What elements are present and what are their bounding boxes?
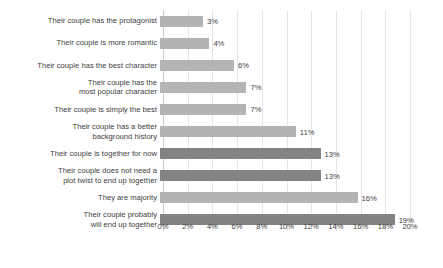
- bar-track: 13%: [160, 143, 443, 165]
- bar-value-label: 3%: [207, 17, 218, 26]
- x-tick-label: 14%: [328, 222, 343, 231]
- category-label: Their couple has the best character: [0, 61, 160, 70]
- x-tick-label: 12%: [304, 222, 319, 231]
- bar-track: 7%: [160, 98, 443, 120]
- bar-row: Their couple has the protagonist3%: [0, 10, 443, 32]
- bar-value-label: 7%: [250, 105, 261, 114]
- x-tick-label: 16%: [353, 222, 368, 231]
- bar-row: Their couple has a better background his…: [0, 120, 443, 142]
- bar-value-label: 13%: [325, 171, 340, 180]
- bar: 6%: [160, 60, 234, 71]
- bar-row: Their couple is together for now13%: [0, 143, 443, 165]
- bar-value-label: 7%: [250, 83, 261, 92]
- category-label: Their couple is together for now: [0, 149, 160, 158]
- bar: 11%: [160, 126, 296, 137]
- bar-track: 7%: [160, 76, 443, 98]
- bar-row: Their couple has the most popular charac…: [0, 76, 443, 98]
- bar-row: Their couple does not need a plot twist …: [0, 165, 443, 187]
- bar-row: Their couple is more romantic4%: [0, 32, 443, 54]
- bar: 7%: [160, 82, 246, 93]
- x-tick-label: 10%: [279, 222, 294, 231]
- bar-chart: Their couple has the protagonist3%Their …: [0, 0, 443, 268]
- x-tick-label: 0%: [158, 222, 169, 231]
- bar-value-label: 11%: [300, 127, 315, 136]
- bar-row: They are majority16%: [0, 187, 443, 209]
- bar-track: 3%: [160, 10, 443, 32]
- x-tick-label: 8%: [256, 222, 267, 231]
- x-tick-label: 2%: [182, 222, 193, 231]
- category-label: Their couple is simply the best: [0, 105, 160, 114]
- category-label: They are majority: [0, 193, 160, 202]
- category-label: Their couple does not need a plot twist …: [0, 166, 160, 185]
- category-label: Their couple has the most popular charac…: [0, 78, 160, 97]
- bar-track: 13%: [160, 165, 443, 187]
- category-label: Their couple probably will end up togeth…: [0, 210, 160, 229]
- bar-track: 6%: [160, 54, 443, 76]
- x-tick-label: 4%: [207, 222, 218, 231]
- bar-value-label: 6%: [238, 61, 249, 70]
- x-tick-label: 20%: [402, 222, 417, 231]
- bar-value-label: 4%: [213, 39, 224, 48]
- x-tick-label: 6%: [232, 222, 243, 231]
- bar-rows: Their couple has the protagonist3%Their …: [0, 10, 443, 231]
- bar-row: Their couple is simply the best7%: [0, 98, 443, 120]
- bar: 3%: [160, 16, 203, 27]
- bar: 16%: [160, 192, 358, 203]
- bar: 4%: [160, 38, 209, 49]
- category-label: Their couple has the protagonist: [0, 16, 160, 25]
- bar-row: Their couple has the best character6%: [0, 54, 443, 76]
- bar: 7%: [160, 104, 246, 115]
- bar-value-label: 13%: [325, 149, 340, 158]
- x-tick-label: 18%: [378, 222, 393, 231]
- plot-area: Their couple has the protagonist3%Their …: [0, 10, 443, 235]
- bar: 13%: [160, 170, 321, 181]
- bar-track: 11%: [160, 120, 443, 142]
- bar-value-label: 16%: [362, 193, 377, 202]
- bar-track: 4%: [160, 32, 443, 54]
- x-axis: 0%2%4%6%8%10%12%14%16%18%20%: [163, 222, 410, 236]
- bar: 13%: [160, 148, 321, 159]
- bar-track: 16%: [160, 187, 443, 209]
- category-label: Their couple has a better background his…: [0, 122, 160, 141]
- category-label: Their couple is more romantic: [0, 38, 160, 47]
